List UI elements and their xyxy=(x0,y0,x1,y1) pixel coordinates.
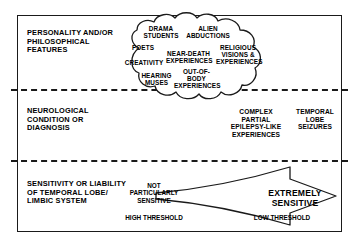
band-divider-lower xyxy=(11,160,348,162)
sensitivity-label-extremely-sensitive: EXTREMELY SENSITIVE xyxy=(266,189,324,209)
sensitivity-label-not-particularly-sensitive: NOT PARTICULARLY SENSITIVE xyxy=(127,182,181,204)
cloud-term-creativity: CREATIVITY xyxy=(123,59,165,66)
band-label-sensitivity: SENSITIVITY OR LIABILITY OF TEMPORAL LOB… xyxy=(27,180,127,206)
cloud-term-out-of-body-experiences: OUT-OF-BODY EXPERIENCES xyxy=(174,68,219,89)
threshold-label-low: LOW THRESHOLD xyxy=(252,214,312,221)
band-label-neurological: NEUROLOGICAL CONDITION OR DIAGNOSIS xyxy=(27,107,122,133)
threshold-label-high: HIGH THRESHOLD xyxy=(122,214,186,221)
band-label-personality: PERSONALITY AND/OR PHILOSOPHICAL FEATURE… xyxy=(27,29,119,55)
temporal-lobe-sensitivity-diagram: PERSONALITY AND/OR PHILOSOPHICAL FEATURE… xyxy=(0,0,357,248)
cloud-term-hearing-muses: HEARING MUSES xyxy=(140,72,173,86)
condition-term-temporal-lobe-seizures: TEMPORAL LOBE SEIZURES xyxy=(292,108,338,131)
cloud-term-alien-abductions: ALIEN ABDUCTIONS xyxy=(186,25,230,39)
cloud-term-near-death-experiences: NEAR-DEATH EXPERIENCES xyxy=(166,50,211,64)
cloud-term-poets: POETS xyxy=(128,44,158,51)
cloud-term-drama-students: DRAMA STUDENTS xyxy=(141,25,181,39)
cloud-term-religious-visions: RELIGIOUS VISIONS & EXPERIENCES xyxy=(216,44,260,65)
condition-term-complex-partial-epilepsy: COMPLEX PARTIAL EPILEPSY-LIKE EXPERIENCE… xyxy=(226,108,286,138)
